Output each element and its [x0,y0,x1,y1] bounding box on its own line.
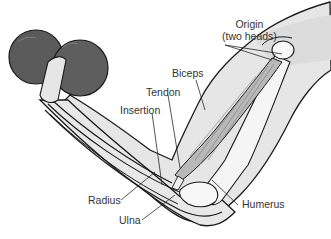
label-tendon: Tendon [146,86,180,98]
label-biceps: Biceps [172,67,204,79]
label-insertion: Insertion [120,104,160,116]
label-ulna: Ulna [119,214,141,226]
label-humerus: Humerus [242,198,285,210]
label-radius: Radius [88,194,121,206]
label-origin-line2: (two heads) [222,30,277,42]
label-origin: Origin (two heads) [222,18,277,42]
label-origin-line1: Origin [222,18,277,30]
